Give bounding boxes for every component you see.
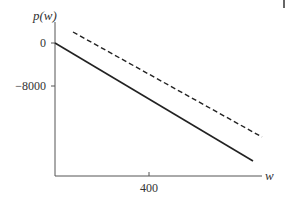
x-axis-label: w — [265, 168, 274, 183]
y-axis-label: p(w) — [32, 8, 57, 23]
dashed-line — [73, 32, 262, 137]
chart: p(w) w 0 −8000 400 — [0, 0, 289, 205]
x-tick-label-400: 400 — [140, 181, 158, 195]
y-tick-label-8000: −8000 — [15, 79, 46, 93]
corner-mark — [283, 0, 285, 8]
y-tick-label-0: 0 — [40, 36, 46, 50]
solid-line — [55, 43, 253, 161]
